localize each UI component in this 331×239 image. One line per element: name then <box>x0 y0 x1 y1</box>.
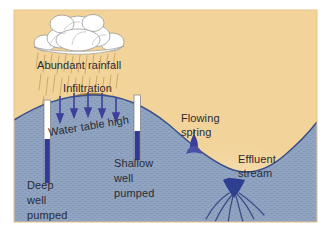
label-effluent-stream-line2: stream <box>238 167 272 179</box>
scene: Abundant rainfall Infiltration Water tab… <box>14 10 328 239</box>
deep-well-water <box>45 139 50 183</box>
groundwater-diagram: Abundant rainfall Infiltration Water tab… <box>0 0 331 239</box>
label-shallow-well-line1: Shallow <box>114 157 153 169</box>
label-deep-well-line1: Deep <box>27 179 54 191</box>
shallow-well-pumped <box>134 95 141 161</box>
label-flowing-spring-line2: spring <box>181 126 212 138</box>
label-flowing-spring-line1: Flowing <box>181 112 220 124</box>
diagram-canvas: Abundant rainfall Infiltration Water tab… <box>0 0 331 239</box>
label-deep-well-line2: well <box>26 194 46 206</box>
label-effluent-stream-line1: Effluent <box>238 153 276 165</box>
deep-well-pumped <box>44 100 51 184</box>
shallow-well-water <box>135 131 140 160</box>
label-infiltration: Infiltration <box>63 82 112 94</box>
label-shallow-well-line3: pumped <box>114 187 154 199</box>
label-deep-well-line3: pumped <box>27 209 67 221</box>
label-abundant-rainfall: Abundant rainfall <box>37 59 121 71</box>
label-shallow-well-line2: well <box>113 172 133 184</box>
